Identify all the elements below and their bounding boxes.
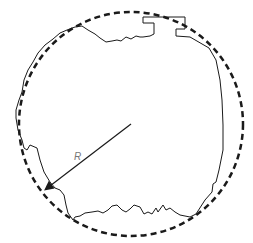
diagram-canvas: R <box>0 0 253 243</box>
radius-label: R <box>74 151 81 162</box>
radius-arrow <box>46 124 131 189</box>
irregular-outline <box>16 17 223 220</box>
